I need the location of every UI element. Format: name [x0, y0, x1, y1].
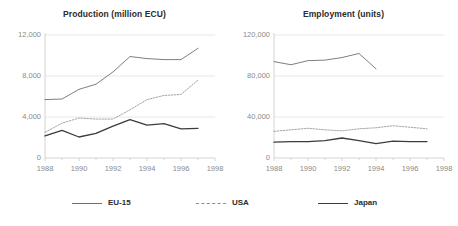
plot-area-employment: 040,00080,000120,00019881990199219941996… — [229, 0, 458, 185]
y-axis-tick-label: 4,000 — [0, 112, 41, 121]
y-axis-tick-label: 8,000 — [0, 71, 41, 80]
legend-line-icon-japan — [318, 200, 348, 206]
legend-item-usa: USA — [196, 198, 249, 207]
series-line-usa — [274, 126, 427, 132]
plot-area-production: 04,0008,00012,00019881990199219941996199… — [0, 0, 229, 185]
series-line-japan — [45, 120, 198, 137]
legend-item-japan: Japan — [318, 198, 377, 207]
legend-line-icon-usa — [196, 200, 226, 206]
chart-legend: EU-15 USA Japan — [0, 188, 458, 226]
series-line-usa — [45, 80, 198, 132]
legend-label-eu15: EU-15 — [108, 198, 131, 207]
series-line-japan — [274, 138, 427, 144]
chart-panel-production: Production (million ECU) 04,0008,00012,0… — [0, 0, 229, 185]
legend-item-eu15: EU-15 — [72, 198, 131, 207]
chart-page: Production (million ECU) 04,0008,00012,0… — [0, 0, 458, 226]
series-line-eu-15 — [45, 48, 198, 99]
y-axis-tick-label: 0 — [229, 153, 270, 162]
chart-panel-employment: Employment (units) 040,00080,000120,0001… — [229, 0, 458, 185]
legend-label-japan: Japan — [354, 198, 377, 207]
y-axis-tick-label: 80,000 — [229, 71, 270, 80]
y-axis-tick-label: 0 — [0, 153, 41, 162]
x-axis-tick-label: 1998 — [424, 164, 458, 173]
y-axis-tick-label: 12,000 — [0, 30, 41, 39]
y-axis-tick-label: 120,000 — [229, 30, 270, 39]
legend-line-icon-eu15 — [72, 200, 102, 206]
legend-label-usa: USA — [232, 198, 249, 207]
series-line-eu-15 — [274, 53, 376, 68]
y-axis-tick-label: 40,000 — [229, 112, 270, 121]
